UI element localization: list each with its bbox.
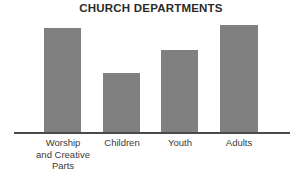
bar-adults [220, 25, 258, 132]
bar-worship-and-creative-parts [44, 28, 81, 132]
x-tick-label-adults: Adults [214, 137, 264, 149]
bar-youth [161, 50, 198, 132]
x-axis-line [14, 132, 290, 134]
x-tick-label-youth: Youth [155, 137, 205, 149]
x-tick-label-children: Children [97, 137, 147, 149]
x-tick-label-worship-and-creative-parts: Worship and Creative Parts [24, 137, 102, 172]
bar-children [103, 73, 140, 132]
bar-chart: CHURCH DEPARTMENTS Worship and Creative … [0, 0, 302, 183]
plot-area: Worship and Creative Parts Children Yout… [0, 0, 302, 183]
